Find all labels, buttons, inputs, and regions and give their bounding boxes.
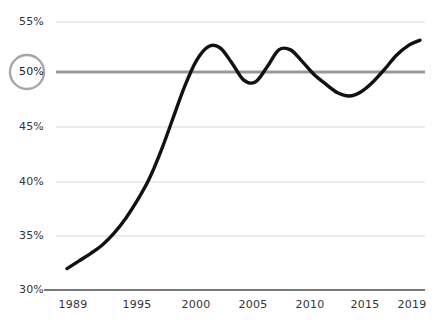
gridlines [56, 22, 425, 236]
x-tick-label-1995: 1995 [123, 298, 152, 311]
line-chart: 55% 50% 45% 40% 35% 30% 1989 1995 2000 2… [0, 0, 441, 328]
y-tick-label-55: 55% [19, 15, 44, 28]
y-tick-label-35: 35% [19, 229, 44, 242]
x-tick-label-2019: 2019 [398, 298, 427, 311]
x-tick-label-1989: 1989 [59, 298, 88, 311]
y-tick-label-50: 50% [19, 65, 44, 78]
x-axis-labels: 1989 1995 2000 2005 2010 2015 2019 [59, 298, 427, 311]
x-tick-label-2000: 2000 [182, 298, 211, 311]
data-line-series-share [67, 40, 420, 268]
y-tick-label-40: 40% [19, 175, 44, 188]
chart-container: 55% 50% 45% 40% 35% 30% 1989 1995 2000 2… [0, 0, 441, 328]
y-tick-label-45: 45% [19, 120, 44, 133]
x-tick-label-2005: 2005 [239, 298, 268, 311]
y-tick-label-30: 30% [19, 283, 44, 296]
x-tick-label-2015: 2015 [351, 298, 380, 311]
y-axis-labels: 55% 50% 45% 40% 35% 30% [19, 15, 44, 296]
x-tick-label-2010: 2010 [296, 298, 325, 311]
